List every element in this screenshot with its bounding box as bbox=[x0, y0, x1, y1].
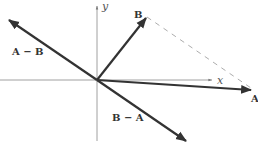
y-axis-label: y bbox=[101, 0, 109, 13]
vector-a bbox=[97, 80, 251, 90]
dashed-connector bbox=[147, 17, 251, 88]
label-b-minus-a: B − A bbox=[112, 112, 144, 123]
vector-diagram: x y B A A − B B − A bbox=[0, 0, 258, 154]
label-b: B bbox=[134, 9, 142, 20]
vector-b-minus-a bbox=[97, 80, 186, 141]
label-a: A bbox=[250, 93, 258, 104]
label-a-minus-b: A − B bbox=[11, 46, 44, 57]
vector-b bbox=[97, 18, 146, 80]
x-axis-label: x bbox=[217, 74, 224, 87]
